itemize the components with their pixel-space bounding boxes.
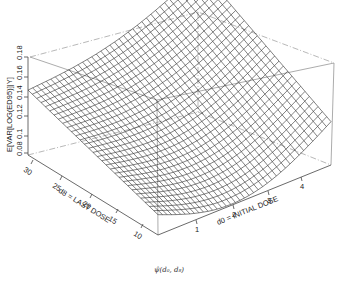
x-axis: 1234 d0 = INITIAL DOSE [158, 165, 331, 235]
wireframe-surface [28, 0, 331, 215]
plot-box-front [30, 57, 334, 235]
z-axis: 0.080.10.120.140.160.18 E[VAR[LOG(ED95)]… [5, 45, 28, 156]
y-axis-label: d8 = LAST DOSE [57, 186, 112, 225]
z-tick-label: 0.08 [15, 141, 24, 156]
mesh-line [110, 66, 283, 169]
mesh-line [158, 122, 331, 215]
z-axis-label: E[VAR[LOG(ED95)]|Y] [5, 77, 14, 152]
mesh-line [192, 0, 322, 131]
mesh-line [196, 0, 326, 127]
z-tick-label: 0.14 [15, 85, 24, 100]
y-axis: 3025201510 d8 = LAST DOSE [22, 155, 158, 241]
z-tick-label: 0.16 [15, 65, 24, 80]
surface-plot: 0.080.10.120.140.160.18 E[VAR[LOG(ED95)]… [0, 0, 338, 292]
mesh-line [106, 61, 279, 165]
mesh-line [84, 36, 257, 144]
mesh-line [45, 0, 218, 107]
x-tick-label: 4 [300, 182, 304, 191]
x-tick-label: 1 [195, 225, 199, 234]
z-tick-label: 0.12 [15, 104, 24, 119]
z-tick-label: 0.18 [15, 45, 24, 60]
z-tick-label: 0.1 [15, 129, 24, 139]
figure-caption: ψ̂(d₀, d₈) [0, 266, 338, 274]
mesh-line [183, 0, 313, 141]
mesh-line [169, 0, 299, 155]
mesh-line [187, 0, 317, 136]
y-tick-label: 10 [132, 229, 144, 241]
y-tick-label: 30 [22, 165, 34, 177]
mesh-line [28, 0, 201, 90]
